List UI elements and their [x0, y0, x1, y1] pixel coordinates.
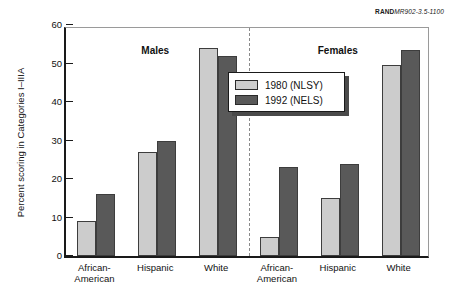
y-axis-tick: 20: [66, 178, 73, 179]
x-axis-tick-label: White: [386, 262, 410, 273]
bar: [260, 237, 279, 256]
legend-label: 1992 (NELS): [265, 95, 323, 106]
y-axis-tick-label: 20: [51, 173, 62, 184]
chart-legend: 1980 (NLSY)1992 (NELS): [228, 72, 345, 112]
x-axis-tick-label-line: African-: [257, 262, 297, 273]
y-axis-tick: 60: [66, 24, 73, 25]
y-axis-tick-label: 10: [51, 212, 62, 223]
plot-area: 0102030405060: [64, 27, 429, 258]
x-axis-tick-label-line: White: [204, 262, 228, 273]
legend-swatch: [235, 80, 258, 90]
y-axis-tick: 30: [66, 140, 73, 141]
legend-swatch: [235, 95, 258, 105]
x-axis-tick-label-line: African-: [74, 262, 114, 273]
panel-title-males: Males: [141, 45, 169, 56]
x-axis-tick-label: African-American: [257, 262, 297, 284]
y-axis-title: Percent scoring in Categories I–IIIA: [14, 27, 28, 258]
rand-credit-line: RANDMR902-3.5-1100: [375, 8, 444, 15]
bar: [401, 50, 420, 256]
y-axis-tick-label: 50: [51, 58, 62, 69]
bar: [321, 198, 340, 256]
panel-divider: [249, 28, 250, 256]
x-axis-tick-label-line: White: [386, 262, 410, 273]
x-axis-tick-label-line: American: [257, 273, 297, 284]
bar: [77, 221, 96, 256]
legend-label: 1980 (NLSY): [265, 80, 323, 91]
y-axis-tick-label: 30: [51, 135, 62, 146]
rand-document-number: MR902-3.5-1100: [394, 8, 444, 15]
x-axis-tick-label-line: Hispanic: [137, 262, 173, 273]
x-axis-tick-label: African-American: [74, 262, 114, 284]
y-axis-tick-label: 60: [51, 19, 62, 30]
rand-brand-label: RAND: [375, 8, 394, 15]
bar: [138, 152, 157, 256]
x-axis-tick-label: Hispanic: [137, 262, 173, 273]
x-axis-tick-label: Hispanic: [320, 262, 356, 273]
bar: [279, 167, 298, 256]
x-axis-tick-label: White: [204, 262, 228, 273]
panel-title-females: Females: [318, 45, 358, 56]
bar: [157, 141, 176, 257]
y-axis-tick-label: 0: [57, 250, 62, 261]
x-axis-tick-label-line: American: [74, 273, 114, 284]
legend-item: 1980 (NLSY): [235, 78, 338, 92]
y-axis-tick: 40: [66, 101, 73, 102]
y-axis-tick: 10: [66, 217, 73, 218]
y-axis-tick-label: 40: [51, 96, 62, 107]
bar: [382, 65, 401, 256]
bar: [96, 194, 115, 256]
y-axis-tick: 0: [66, 255, 73, 256]
bar: [199, 48, 218, 256]
legend-item: 1992 (NELS): [235, 93, 338, 107]
bar: [340, 164, 359, 256]
x-axis-tick-label-line: Hispanic: [320, 262, 356, 273]
chart-figure: RANDMR902-3.5-1100 Percent scoring in Ca…: [0, 0, 450, 300]
y-axis-tick: 50: [66, 63, 73, 64]
